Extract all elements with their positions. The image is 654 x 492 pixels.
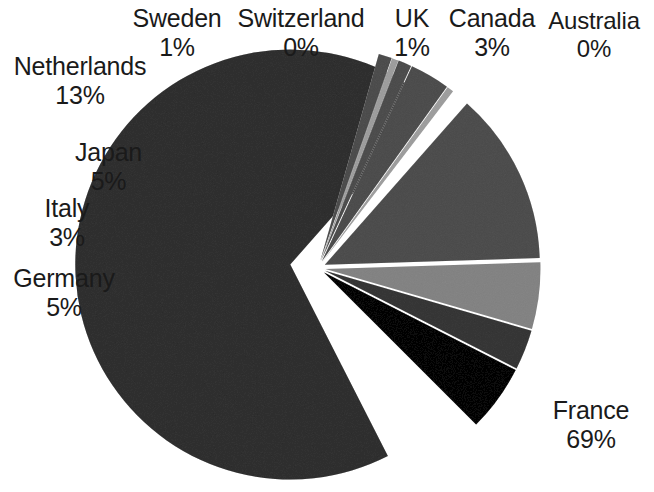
pie-slice-group xyxy=(75,49,540,479)
label-germany: Germany 5% xyxy=(0,264,128,322)
label-uk-name: UK xyxy=(382,4,442,33)
label-uk: UK 1% xyxy=(382,4,442,62)
label-switzerland: Switzerland 0% xyxy=(226,4,376,62)
label-sweden-name: Sweden xyxy=(122,4,232,33)
label-germany-name: Germany xyxy=(0,264,128,293)
label-netherlands-value: 13% xyxy=(0,81,160,110)
label-sweden-value: 1% xyxy=(122,33,232,62)
label-australia: Australia 0% xyxy=(534,7,654,63)
label-switzerland-value: 0% xyxy=(226,33,376,62)
label-switzerland-name: Switzerland xyxy=(226,4,376,33)
label-japan: Japan 5% xyxy=(56,138,161,196)
label-france-name: France xyxy=(536,396,646,425)
label-japan-name: Japan xyxy=(56,138,161,167)
label-germany-value: 5% xyxy=(0,293,128,322)
label-france-value: 69% xyxy=(536,425,646,454)
label-france: France 69% xyxy=(536,396,646,454)
label-uk-value: 1% xyxy=(382,33,442,62)
label-australia-name: Australia xyxy=(534,7,654,35)
label-australia-value: 0% xyxy=(534,35,654,63)
label-italy-value: 3% xyxy=(22,223,112,252)
label-italy: Italy 3% xyxy=(22,194,112,252)
label-canada: Canada 3% xyxy=(437,4,547,62)
label-canada-value: 3% xyxy=(437,33,547,62)
label-japan-value: 5% xyxy=(56,167,161,196)
pie-chart-container: Netherlands 13% Sweden 1% Switzerland 0%… xyxy=(0,0,654,492)
label-italy-name: Italy xyxy=(22,194,112,223)
label-canada-name: Canada xyxy=(437,4,547,33)
label-sweden: Sweden 1% xyxy=(122,4,232,62)
